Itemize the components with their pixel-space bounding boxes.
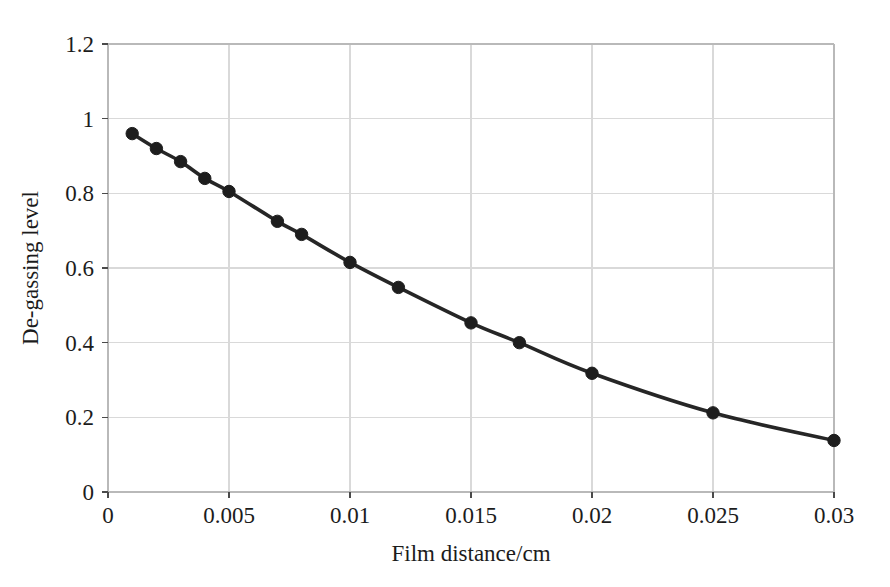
data-point-marker <box>271 215 283 227</box>
x-tick-labels: 00.0050.010.0150.020.0250.03 <box>102 503 854 528</box>
data-point-marker <box>513 336 525 348</box>
data-point-marker <box>199 172 211 184</box>
y-tick-label: 0.8 <box>65 181 94 206</box>
data-point-marker <box>295 228 307 240</box>
y-tick-label: 1.2 <box>65 32 94 57</box>
data-point-marker <box>828 434 840 446</box>
y-tick-label: 0 <box>83 480 95 505</box>
data-point-marker <box>707 407 719 419</box>
chart-figure: 00.0050.010.0150.020.0250.03 00.20.40.60… <box>0 0 890 587</box>
data-point-marker <box>344 256 356 268</box>
x-tick-label: 0.01 <box>330 503 370 528</box>
y-tick-label: 0.6 <box>65 256 94 281</box>
data-point-marker <box>126 127 138 139</box>
x-tick-label: 0.02 <box>572 503 612 528</box>
x-tick-label: 0.015 <box>445 503 497 528</box>
data-point-marker <box>465 317 477 329</box>
x-tick-label: 0.03 <box>814 503 854 528</box>
y-tick-label: 0.4 <box>65 331 94 356</box>
data-point-marker <box>174 155 186 167</box>
y-tick-label: 1 <box>83 107 95 132</box>
line-chart: 00.0050.010.0150.020.0250.03 00.20.40.60… <box>0 0 890 587</box>
data-point-marker <box>223 185 235 197</box>
y-tick-label: 0.2 <box>65 405 94 430</box>
x-tick-label: 0 <box>102 503 114 528</box>
data-point-marker <box>392 281 404 293</box>
y-axis-title: De-gassing level <box>18 191 43 345</box>
x-tick-label: 0.025 <box>687 503 739 528</box>
data-point-marker <box>586 367 598 379</box>
x-tick-label: 0.005 <box>203 503 255 528</box>
y-tick-labels: 00.20.40.60.811.2 <box>65 32 94 505</box>
x-axis-title: Film distance/cm <box>391 541 550 566</box>
data-point-marker <box>150 142 162 154</box>
